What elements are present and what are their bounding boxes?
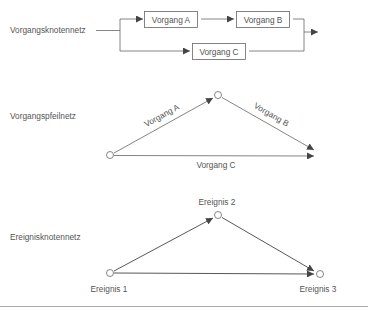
event-node-1	[107, 270, 114, 277]
event-label-3: Ereignis 3	[300, 284, 337, 294]
edge-label-b: Vorgang B	[252, 100, 291, 128]
event-node-3	[317, 271, 324, 278]
edge-label-a: Vorgang A	[142, 101, 181, 129]
event-node-start	[107, 152, 114, 159]
event-label-1: Ereignis 1	[91, 284, 128, 294]
node-label: Vorgang C	[199, 47, 238, 57]
node-label: Vorgang B	[244, 15, 283, 25]
section-label: Ereignisknotennetz	[10, 232, 81, 242]
network-diagram: Vorgangsknotennetz Vorgang A Vorgang B V…	[0, 0, 368, 310]
section-label: Vorgangspfeilnetz	[10, 111, 76, 121]
event-label-2: Ereignis 2	[199, 197, 236, 207]
node-vorgang-c: Vorgang C	[193, 44, 246, 60]
node-vorgang-a: Vorgang A	[145, 12, 198, 28]
node-label: Vorgang A	[152, 15, 191, 25]
edge-label-c: Vorgang C	[196, 160, 235, 170]
event-node-middle	[215, 92, 222, 99]
event-arrows	[114, 218, 314, 275]
section-vorgangspfeilnetz: Vorgangspfeilnetz Vorgang A Vorgang B Vo…	[10, 92, 314, 171]
node-vorgang-b: Vorgang B	[237, 12, 290, 28]
section-ereignisknotennetz: Ereignisknotennetz Ereignis 1 Ereignis 2…	[10, 197, 337, 294]
event-node-2	[215, 212, 222, 219]
section-label: Vorgangsknotennetz	[10, 25, 86, 35]
section-vorgangsknotennetz: Vorgangsknotennetz Vorgang A Vorgang B V…	[10, 12, 318, 60]
